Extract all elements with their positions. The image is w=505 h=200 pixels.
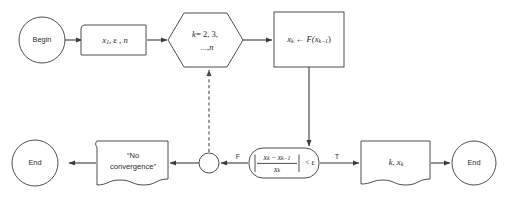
node-process[interactable]: xk ← F(xk−1)	[274, 12, 344, 67]
node-output[interactable]: k, xk	[361, 141, 430, 185]
node-end-left[interactable]: End	[12, 140, 58, 186]
node-end-right-label: End	[467, 158, 480, 167]
node-input-label: x1, ε , n	[101, 35, 127, 45]
flowchart-canvas: Begin x1, ε , n k= 2, 3, ...,n xk ← F(xk…	[0, 0, 505, 200]
flowchart-svg: Begin x1, ε , n k= 2, 3, ...,n xk ← F(xk…	[0, 0, 505, 200]
node-no-convergence-line2: convergence”	[110, 162, 156, 171]
node-junction[interactable]	[199, 153, 219, 173]
node-decision-comparison: < ε	[305, 158, 314, 167]
node-loop[interactable]: k= 2, 3, ...,n	[168, 13, 243, 67]
node-decision[interactable]: xk − xk−1 xk < ε	[249, 148, 319, 178]
node-end-right[interactable]: End	[452, 141, 496, 185]
edge-label-false: F	[236, 152, 241, 161]
node-loop-label-line1: k= 2, 3,	[192, 29, 218, 39]
node-loop-label-line2: ...,n	[201, 42, 214, 52]
node-begin[interactable]: Begin	[19, 17, 65, 63]
node-input[interactable]: x1, ε , n	[81, 25, 146, 55]
edge-label-true: T	[335, 152, 340, 161]
node-no-convergence-line1: “No	[127, 151, 139, 160]
node-end-left-label: End	[28, 158, 41, 167]
node-no-convergence[interactable]: “No convergence”	[96, 141, 168, 185]
node-begin-label: Begin	[33, 35, 52, 44]
